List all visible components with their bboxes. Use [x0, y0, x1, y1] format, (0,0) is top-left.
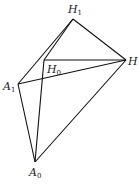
label-A1: A1 — [2, 80, 15, 94]
edge-A1-H — [18, 60, 126, 84]
edge-H1-H — [73, 19, 126, 60]
label-A0: A0 — [28, 166, 41, 180]
edge-A1-A0 — [18, 84, 35, 162]
geometry-diagram: H1 H H0 A1 A0 — [0, 0, 139, 189]
label-H1: H1 — [67, 3, 82, 17]
edge-H1-A1 — [18, 19, 73, 84]
label-H: H — [127, 55, 138, 68]
edge-H0-A0 — [35, 60, 44, 162]
edge-H1-H0 — [44, 19, 73, 60]
label-H0: H0 — [46, 63, 61, 77]
